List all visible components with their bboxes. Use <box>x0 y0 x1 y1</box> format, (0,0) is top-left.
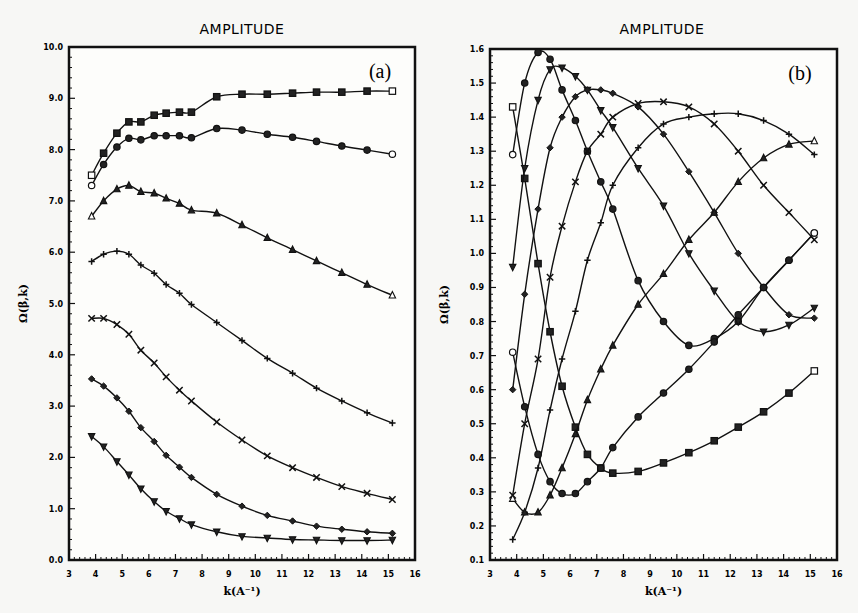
marker-square-icon <box>138 119 144 125</box>
y-tick-label: 1.1 <box>470 215 485 224</box>
marker-circle-icon <box>188 135 194 141</box>
marker-circle-icon <box>660 318 666 324</box>
y-tick-label: 0.4 <box>470 454 485 463</box>
x-tick-label: 14 <box>778 570 790 579</box>
marker-square-icon <box>163 110 169 116</box>
chart-title: AMPLITUDE <box>200 21 285 37</box>
x-axis-label: k(A⁻¹) <box>223 585 260 598</box>
x-tick-label: 12 <box>303 570 314 579</box>
x-tick-label: 5 <box>119 570 125 579</box>
marker-circle-icon <box>686 342 692 348</box>
y-axis-label: Ω(β,k) <box>17 284 30 323</box>
y-axis-label: Ω(β,k) <box>438 285 451 324</box>
marker-circle-icon <box>313 138 319 144</box>
plot-frame <box>69 47 415 560</box>
y-tick-label: 6.0 <box>49 248 64 257</box>
marker-circle-icon <box>100 161 106 167</box>
marker-square-icon <box>364 88 370 94</box>
marker-circle-icon <box>114 144 120 150</box>
y-tick-label: 0.3 <box>470 488 484 497</box>
x-tick-label: 11 <box>698 570 710 579</box>
y-tick-label: 1.2 <box>470 181 484 190</box>
marker-circle-icon <box>88 182 94 188</box>
marker-circle-icon <box>635 414 641 420</box>
marker-square-icon <box>547 329 553 335</box>
y-tick-label: 5.0 <box>49 300 64 309</box>
marker-circle-icon <box>610 444 616 450</box>
x-tick-label: 3 <box>66 570 72 579</box>
x-tick-label: 11 <box>276 570 288 579</box>
marker-circle-icon <box>547 56 553 62</box>
x-tick-label: 4 <box>93 570 99 579</box>
marker-circle-icon <box>559 490 565 496</box>
y-tick-label: 0.9 <box>470 283 485 292</box>
marker-square-icon <box>126 119 132 125</box>
y-axis: 0.01.02.03.04.05.06.07.08.09.010.0Ω(β,k) <box>17 43 75 565</box>
marker-square-icon <box>100 150 106 156</box>
x-tick-label: 12 <box>725 570 736 579</box>
marker-square-icon <box>88 172 94 178</box>
marker-square-icon <box>760 409 766 415</box>
marker-square-icon <box>176 109 182 115</box>
y-tick-label: 0.8 <box>470 318 485 327</box>
marker-circle-icon <box>151 133 157 139</box>
marker-circle-icon <box>126 135 132 141</box>
x-tick-label: 9 <box>226 570 232 579</box>
marker-square-icon <box>686 449 692 455</box>
marker-square-icon <box>264 91 270 97</box>
marker-square-icon <box>114 130 120 136</box>
chart-panel-a: AMPLITUDE(a)345678910111213141516k(A⁻¹)0… <box>17 21 421 598</box>
marker-circle-icon <box>289 134 295 140</box>
y-tick-label: 7.0 <box>49 197 64 206</box>
marker-square-icon <box>313 89 319 95</box>
x-tick-label: 10 <box>250 570 262 579</box>
marker-square-icon <box>389 88 395 94</box>
marker-circle-icon <box>811 230 817 236</box>
marker-circle-icon <box>176 133 182 139</box>
marker-circle-icon <box>686 366 692 372</box>
y-tick-label: 0.6 <box>470 386 485 395</box>
marker-square-icon <box>188 109 194 115</box>
y-axis: 0.10.20.30.40.50.60.70.80.91.01.11.21.31… <box>438 45 496 565</box>
marker-square-icon <box>786 390 792 396</box>
marker-circle-icon <box>711 339 717 345</box>
y-tick-label: 9.0 <box>49 94 64 103</box>
x-tick-label: 3 <box>487 570 493 579</box>
marker-circle-icon <box>547 478 553 484</box>
marker-square-icon <box>214 94 220 100</box>
x-axis-label: k(A⁻¹) <box>645 585 682 598</box>
x-tick-label: 8 <box>199 570 205 579</box>
x-tick-label: 5 <box>541 570 547 579</box>
x-tick-label: 15 <box>383 570 395 579</box>
marker-circle-icon <box>138 137 144 143</box>
marker-circle-icon <box>364 147 370 153</box>
y-tick-label: 1.4 <box>470 113 485 122</box>
x-tick-label: 13 <box>751 570 762 579</box>
chart-panel-b: AMPLITUDE(b)345678910111213141516k(A⁻¹)0… <box>438 21 843 598</box>
x-tick-label: 8 <box>621 570 627 579</box>
chart-title: AMPLITUDE <box>620 21 705 37</box>
marker-circle-icon <box>522 404 528 410</box>
marker-square-icon <box>509 104 515 110</box>
y-tick-label: 0.5 <box>470 420 485 429</box>
x-tick-label: 4 <box>514 570 520 579</box>
marker-circle-icon <box>610 206 616 212</box>
x-tick-label: 7 <box>594 570 600 579</box>
y-tick-label: 2.0 <box>49 453 64 462</box>
marker-circle-icon <box>163 133 169 139</box>
y-tick-label: 0.2 <box>470 522 484 531</box>
marker-circle-icon <box>509 349 515 355</box>
marker-circle-icon <box>239 127 245 133</box>
marker-circle-icon <box>389 151 395 157</box>
x-tick-label: 15 <box>805 570 817 579</box>
marker-square-icon <box>289 90 295 96</box>
marker-circle-icon <box>264 131 270 137</box>
y-tick-label: 0.7 <box>470 352 484 361</box>
marker-circle-icon <box>584 478 590 484</box>
marker-circle-icon <box>559 87 565 93</box>
x-tick-label: 10 <box>671 570 683 579</box>
marker-square-icon <box>735 424 741 430</box>
marker-circle-icon <box>598 465 604 471</box>
x-tick-label: 6 <box>567 570 573 579</box>
y-tick-label: 10.0 <box>43 43 63 52</box>
